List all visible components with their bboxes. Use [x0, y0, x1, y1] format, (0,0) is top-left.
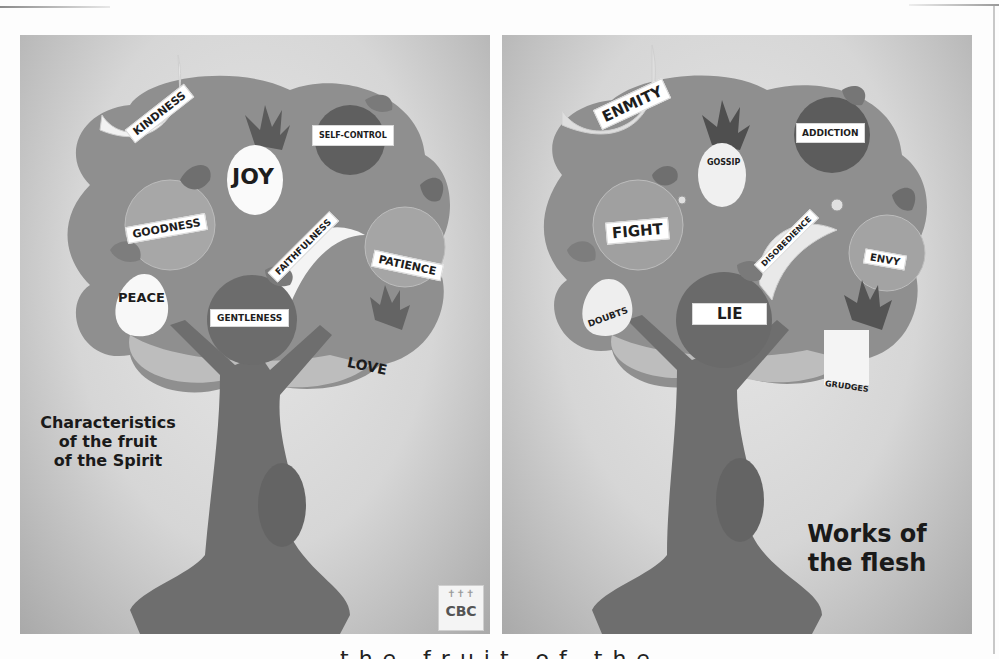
fruit-label: SELF-CONTROL [312, 125, 394, 146]
cross-icon: ✝✝✝ [439, 586, 483, 602]
fruit-label: GENTLENESS [210, 309, 289, 327]
fruit-label: ADDICTION [796, 123, 865, 143]
scan-edge-line [909, 4, 999, 6]
cbc-logo: ✝✝✝ CBC [438, 585, 484, 631]
cut-off-footer-text: the fruit of the [340, 648, 670, 659]
works-of-flesh-poster: ENMITY GOSSIP ADDICTION FIGHT DISOBEDIEN… [502, 35, 972, 634]
page-border-line [993, 6, 995, 654]
poster-caption: Works of the flesh [782, 520, 952, 578]
scan-edge-line [0, 6, 110, 8]
fruit-label: PEACE [113, 289, 170, 306]
fruit-label: LIE [692, 303, 767, 325]
fruit-label: JOY [227, 163, 279, 190]
fruit-of-spirit-poster: KINDNESS JOY SELF-CONTROL GOODNESS FAITH… [20, 35, 490, 634]
tree-illustration [20, 35, 490, 634]
fruit-label: GOSSIP [702, 157, 745, 168]
poster-caption: Characteristics of the fruit of the Spir… [23, 413, 193, 471]
